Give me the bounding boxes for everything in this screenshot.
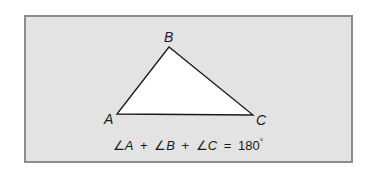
formula-value: 180: [238, 138, 260, 153]
angle-sum-formula: ∠A + ∠B + ∠C = 180°: [0, 137, 376, 153]
vertex-label-b: B: [164, 30, 173, 44]
vertex-label-a: A: [104, 112, 113, 126]
triangle-abc: [117, 47, 253, 115]
plus-sign: +: [137, 138, 151, 153]
angle-symbol: ∠: [154, 138, 166, 153]
formula-term-a: A: [125, 138, 134, 153]
formula-term-c: C: [208, 138, 217, 153]
formula-term-b: B: [166, 138, 175, 153]
angle-symbol: ∠: [196, 138, 208, 153]
equals-sign: =: [221, 138, 235, 153]
plus-sign: +: [179, 138, 193, 153]
degree-symbol: °: [260, 137, 264, 147]
vertex-label-c: C: [256, 113, 266, 127]
angle-symbol: ∠: [113, 138, 125, 153]
